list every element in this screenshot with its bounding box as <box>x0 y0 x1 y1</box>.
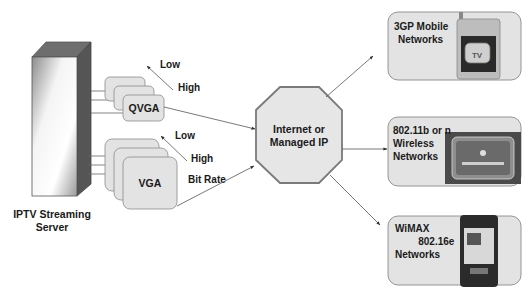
hub-label: Internet or <box>273 123 325 135</box>
qvga-bitrate-high: High <box>178 82 200 93</box>
pda-smartphone-icon <box>460 215 498 287</box>
tablet-media-player-icon <box>445 132 521 184</box>
network-label-wimax-line3: Networks <box>395 249 440 260</box>
vga-bitrate-low: Low <box>175 130 195 141</box>
hub-label-line2: Managed IP <box>270 136 328 148</box>
network-label-3gp: 3GP Mobile <box>394 21 449 32</box>
server-label-line2: Server <box>36 221 69 233</box>
vga-to-hub-arrow <box>177 166 254 206</box>
network-box-3gp: 3GP Mobile Networks TV <box>388 12 521 80</box>
vga-bitrate-high: High <box>191 153 213 164</box>
network-box-wireless: 802.11b or n Wireless Networks <box>388 117 521 186</box>
network-label-wireless-line2: Wireless <box>393 138 434 149</box>
qvga-label: QVGA <box>129 102 160 114</box>
mobile-phone-tv-icon: TV <box>457 12 500 79</box>
vga-stream-stack <box>105 139 177 209</box>
qvga-bitrate-low: Low <box>160 59 180 70</box>
qvga-stream-stack <box>105 77 164 121</box>
network-label-wimax-line2: 802.16e <box>396 236 468 247</box>
iptv-streaming-diagram: IPTV Streaming Server QVGA VGA Low High … <box>0 0 528 292</box>
network-label-wimax: WiMAX <box>395 223 430 234</box>
network-label-wireless-line3: Networks <box>393 151 438 162</box>
vga-label: VGA <box>139 177 162 189</box>
hub-to-wimax-arrow <box>330 175 380 225</box>
network-box-wimax: WiMAX 802.16e Networks <box>388 215 521 287</box>
hub-to-3gp-arrow <box>326 56 373 97</box>
svg-text:TV: TV <box>472 51 483 60</box>
network-label-3gp-line2: Networks <box>398 34 443 45</box>
internet-hub-octagon <box>256 87 342 183</box>
server-label: IPTV Streaming <box>13 208 91 220</box>
network-label-wireless: 802.11b or n <box>393 125 451 136</box>
qvga-to-hub-arrow <box>164 107 255 129</box>
streaming-server-icon <box>32 42 91 196</box>
